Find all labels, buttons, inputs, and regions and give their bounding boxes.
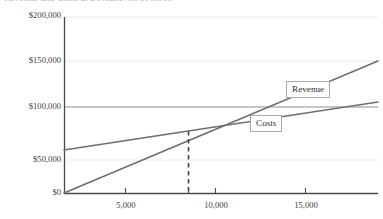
x-tick-label-10000: 10,000: [186, 200, 246, 210]
x-axis-labels: 5,000 10,000 15,000: [0, 0, 383, 219]
series-label-revenue: Revenue: [286, 81, 330, 98]
series-label-costs: Costs: [250, 115, 282, 132]
chart-container: Revenue and Costs at a breakeven of 8,50…: [0, 0, 383, 219]
x-tick-label-15000: 15,000: [276, 200, 336, 210]
x-tick-label-5000: 5,000: [96, 200, 156, 210]
